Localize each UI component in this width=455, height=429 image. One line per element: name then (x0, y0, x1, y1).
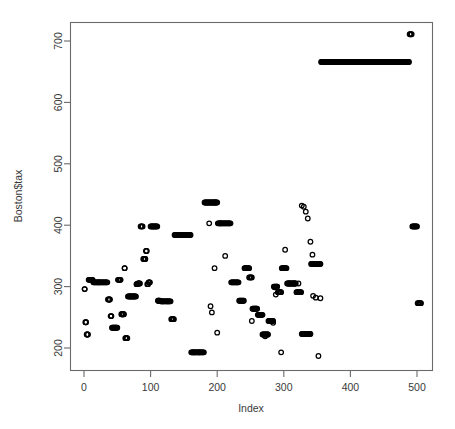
data-point-outlier (303, 209, 308, 214)
data-point-outlier (305, 216, 310, 221)
x-tick-label: 0 (81, 381, 87, 393)
x-tick-label: 100 (142, 381, 160, 393)
data-point-outlier (208, 304, 213, 309)
x-axis-title: Index (238, 402, 264, 414)
y-tick-label: 400 (52, 216, 64, 234)
data-point-outlier (82, 287, 87, 292)
data-point-outlier (308, 239, 313, 244)
data-point-outlier (279, 350, 284, 355)
x-tick-label: 200 (208, 381, 226, 393)
data-point-outlier (316, 354, 321, 359)
x-tick-label: 400 (342, 381, 360, 393)
scatter-chart: 200300400500600700 0100200300400500 Bost… (0, 0, 455, 429)
data-point-outlier (122, 266, 127, 271)
y-tick-label: 600 (52, 93, 64, 111)
plot-canvas: 200300400500600700 0100200300400500 Bost… (0, 0, 455, 429)
data-point-outlier (283, 247, 288, 252)
data-point-outlier (210, 310, 215, 315)
data-point-outlier (223, 254, 228, 259)
x-tick-label: 500 (408, 381, 426, 393)
y-tick-label: 700 (52, 32, 64, 50)
y-tick-label: 200 (52, 339, 64, 357)
y-tick-label: 300 (52, 278, 64, 296)
y-tick-label: 500 (52, 155, 64, 173)
data-point-outlier (310, 252, 315, 257)
data-points (82, 32, 423, 358)
data-point-outlier (215, 330, 220, 335)
y-axis-ticks: 200300400500600700 (52, 32, 70, 357)
y-axis-title: Boston$tax (12, 169, 24, 222)
data-point-outlier (250, 319, 255, 324)
x-axis-ticks: 0100200300400500 (81, 371, 426, 394)
data-point-outlier (207, 221, 212, 226)
data-point-outlier (318, 296, 323, 301)
x-tick-label: 300 (275, 381, 293, 393)
data-point-outlier (212, 266, 217, 271)
